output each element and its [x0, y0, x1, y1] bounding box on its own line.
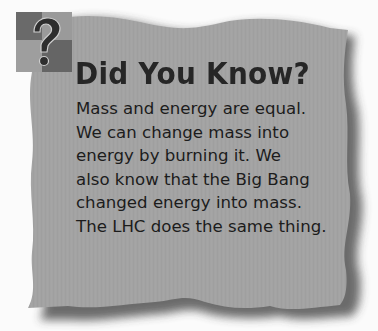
callout-title: Did You Know? [75, 56, 310, 91]
callout-line: Mass and energy are equal. [76, 97, 346, 121]
callout-line: energy by burning it. We [76, 144, 346, 168]
callout-line: changed energy into mass. [76, 191, 346, 215]
callout-line: The LHC does the same thing. [76, 215, 346, 239]
callout-body: Mass and energy are equal. We can change… [76, 97, 346, 239]
callout-line: also know that the Big Bang [76, 168, 346, 192]
did-you-know-callout: Did You Know? Mass and energy are equal.… [0, 0, 378, 331]
question-mark-icon [16, 12, 72, 72]
callout-line: We can change mass into [76, 121, 346, 145]
